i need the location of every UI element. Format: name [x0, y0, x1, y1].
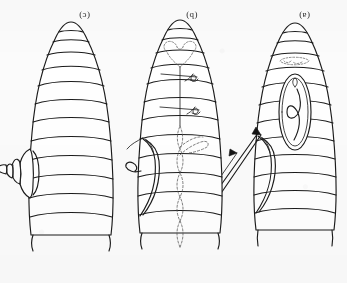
panel-caption-b: (b)	[186, 11, 197, 21]
figure-svg	[0, 0, 347, 283]
panel-a-ovoid-cocoon	[279, 74, 311, 150]
panel-b-stub-right	[141, 233, 143, 249]
panel-b-stub-left	[218, 233, 220, 249]
panel-caption-c-text: (c)	[79, 11, 90, 21]
panel-c-drawing	[0, 22, 113, 251]
panel-caption-c: (c)	[79, 11, 90, 21]
panel-caption-a-text: (a)	[299, 11, 310, 21]
panel-a-stub-right	[257, 230, 258, 246]
figure-plate: (c) (b) (a)	[0, 0, 347, 283]
panel-caption-a: (a)	[299, 11, 310, 21]
panel-b-drawing	[126, 20, 222, 249]
panel-c-stub-right	[32, 235, 34, 251]
figure-plate-rotated	[0, 0, 347, 283]
panel-c-body-outline	[29, 22, 113, 235]
panel-a-stub-left	[332, 230, 333, 246]
panel-c-stub-left	[109, 235, 111, 251]
panel-c-ovipositor-tip	[0, 165, 7, 174]
panel-a-drawing	[211, 23, 336, 246]
panel-caption-b-text: (b)	[186, 11, 197, 21]
